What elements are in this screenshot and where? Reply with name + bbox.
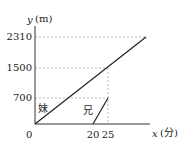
y-tick-700: 700 xyxy=(13,92,32,103)
y-tick-2310: 2310 xyxy=(7,31,32,42)
origin-label: 0 xyxy=(26,129,32,140)
series-line-brother xyxy=(93,98,108,124)
x-tick-25: 25 xyxy=(102,129,115,140)
x-tick-20: 20 xyxy=(87,129,100,140)
series-label-sister: 妹 xyxy=(38,103,48,114)
chart: y (m) 2310 1500 700 0 20 25 x (分) 妹 兄 xyxy=(0,0,187,148)
x-axis-unit: (分) xyxy=(160,127,178,138)
x-axis-var: x xyxy=(152,128,158,139)
series-label-brother: 兄 xyxy=(83,105,93,116)
y-axis-unit: (m) xyxy=(35,13,52,24)
y-tick-1500: 1500 xyxy=(7,62,32,73)
y-axis-var: y xyxy=(26,14,33,25)
